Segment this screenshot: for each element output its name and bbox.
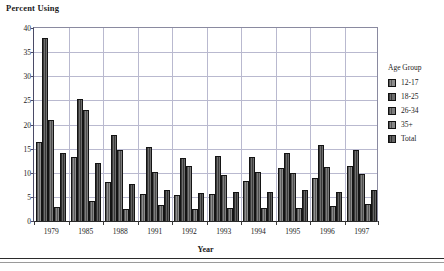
legend-label: 35+ [401, 120, 413, 129]
bar [129, 184, 135, 221]
y-axis-tick-label: 30 [24, 72, 32, 81]
legend-item: 18-25 [388, 92, 444, 101]
legend-item: 26-34 [388, 106, 444, 115]
x-axis-tick-mark [172, 221, 173, 225]
page-rule-bottom [0, 262, 444, 263]
legend-swatch-icon [388, 107, 396, 115]
page-rule-top [0, 258, 444, 259]
x-axis-tick-label: 1993 [216, 227, 231, 236]
x-axis-tick-mark [241, 221, 242, 225]
y-axis-tick-label: 40 [24, 24, 32, 33]
y-axis-tick-label: 20 [24, 120, 32, 129]
y-axis-tick-label: 35 [24, 48, 32, 57]
legend-label: 26-34 [401, 106, 419, 115]
bar-group [276, 28, 311, 221]
legend-item: 12-17 [388, 78, 444, 87]
bar-chart-figure: Percent Using 05101520253035401979198519… [0, 0, 444, 271]
x-axis-tick-mark [103, 221, 104, 225]
legend-label: Total [401, 134, 416, 143]
bar [302, 190, 308, 221]
x-axis-tick-mark [310, 221, 311, 225]
x-axis-tick-label: 1992 [182, 227, 197, 236]
x-axis-tick-label: 1991 [147, 227, 162, 236]
bar-group [172, 28, 207, 221]
bar [336, 192, 342, 221]
x-axis-tick-label: 1995 [285, 227, 300, 236]
x-axis-tick-mark [276, 221, 277, 225]
bar-group [310, 28, 345, 221]
y-axis-tick-label: 10 [24, 168, 32, 177]
y-axis-tick-label: 15 [24, 144, 32, 153]
legend-swatch-icon [388, 93, 396, 101]
bar [48, 120, 54, 221]
legend-item: 35+ [388, 120, 444, 129]
bar [164, 190, 170, 221]
bar [198, 193, 204, 221]
bar-group [34, 28, 69, 221]
x-axis-tick-label: 1997 [354, 227, 369, 236]
x-axis-title: Year [33, 245, 378, 254]
x-axis-tick-mark [138, 221, 139, 225]
chart-legend: Age Group 12-1718-2526-3435+Total [388, 63, 444, 148]
x-axis-tick-label: 1979 [44, 227, 59, 236]
bar-group [69, 28, 104, 221]
x-axis-tick-label: 1996 [320, 227, 335, 236]
bar-group [138, 28, 173, 221]
y-axis-tick-label: 25 [24, 96, 32, 105]
bar [371, 190, 377, 221]
bar-group [345, 28, 380, 221]
legend-label: 18-25 [401, 92, 419, 101]
legend-swatch-icon [388, 135, 396, 143]
x-axis-tick-mark [207, 221, 208, 225]
legend-label: 12-17 [401, 78, 419, 87]
x-axis-tick-mark [69, 221, 70, 225]
plot-area: 0510152025303540197919851988199119921993… [33, 27, 378, 222]
bar [267, 192, 273, 221]
bar-group [103, 28, 138, 221]
x-axis-tick-mark [378, 221, 379, 225]
legend-swatch-icon [388, 121, 396, 129]
legend-swatch-icon [388, 79, 396, 87]
legend-item: Total [388, 134, 444, 143]
x-axis-tick-mark [345, 221, 346, 225]
x-axis-tick-label: 1994 [251, 227, 266, 236]
legend-title: Age Group [388, 63, 444, 72]
bar [233, 192, 239, 221]
x-axis-tick-label: 1988 [113, 227, 128, 236]
bar-group [241, 28, 276, 221]
bar [60, 153, 66, 221]
y-axis-title: Percent Using [6, 3, 59, 13]
x-axis-tick-mark [34, 221, 35, 225]
bar-group [207, 28, 242, 221]
bar [95, 163, 101, 221]
x-axis-tick-label: 1985 [78, 227, 93, 236]
